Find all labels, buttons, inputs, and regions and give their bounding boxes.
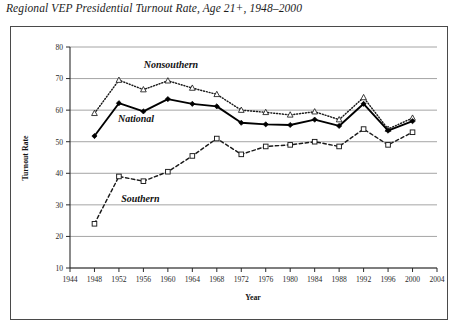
y-tick-label: 50 xyxy=(55,138,63,147)
data-point-marker xyxy=(288,143,293,148)
x-tick-label: 1948 xyxy=(87,275,102,284)
data-point-marker xyxy=(263,122,268,127)
y-tick-label: 30 xyxy=(55,201,63,210)
y-tick-label: 70 xyxy=(55,74,63,83)
y-tick-label: 40 xyxy=(55,169,63,178)
data-point-marker xyxy=(92,222,97,227)
x-tick-label: 2000 xyxy=(405,275,420,284)
data-point-marker xyxy=(141,179,146,184)
x-tick-label: 1960 xyxy=(160,275,175,284)
data-point-marker xyxy=(239,152,244,157)
x-tick-label: 1956 xyxy=(136,275,151,284)
y-tick-label: 10 xyxy=(55,264,63,273)
data-series-layer xyxy=(92,77,416,226)
series-annotation: Southern xyxy=(121,193,160,204)
data-point-marker xyxy=(337,144,342,149)
x-tick-label: 1964 xyxy=(185,275,200,284)
data-point-marker xyxy=(190,154,195,159)
data-point-marker xyxy=(166,169,171,174)
y-axis-title: Turnout Rate xyxy=(21,135,30,181)
data-point-marker xyxy=(312,117,317,122)
x-tick-label: 1984 xyxy=(307,275,322,284)
data-point-marker xyxy=(361,94,367,99)
series-line xyxy=(94,129,412,224)
data-point-marker xyxy=(116,77,122,82)
series-annotation: National xyxy=(117,113,154,124)
chart-plot-area: 1020304050607080 19441948195219561960196… xyxy=(0,0,458,332)
x-tick-label: 1944 xyxy=(62,275,77,284)
x-tick-label: 2004 xyxy=(429,275,444,284)
series-annotations: NonsouthernNationalSouthern xyxy=(117,59,199,203)
x-tick-label: 1988 xyxy=(332,275,347,284)
y-tick-label: 60 xyxy=(55,106,63,115)
x-tick-label: 1996 xyxy=(380,275,395,284)
series-annotation: Nonsouthern xyxy=(143,59,199,70)
x-axis-ticks: 1944194819521956196019641968197219761980… xyxy=(62,268,444,284)
data-point-marker xyxy=(312,139,317,144)
data-point-marker xyxy=(263,144,268,149)
data-point-marker xyxy=(117,174,122,179)
x-tick-label: 1972 xyxy=(234,275,249,284)
data-point-marker xyxy=(288,122,293,127)
y-tick-label: 80 xyxy=(55,43,63,52)
chart-figure: Regional VEP Presidential Turnout Rate, … xyxy=(0,0,458,332)
data-point-marker xyxy=(190,101,195,106)
data-point-marker xyxy=(312,109,318,114)
data-point-marker xyxy=(361,127,366,132)
x-tick-label: 1968 xyxy=(209,275,224,284)
x-tick-label: 1976 xyxy=(258,275,273,284)
y-tick-label: 20 xyxy=(55,232,63,241)
data-point-marker xyxy=(386,143,391,148)
x-tick-label: 1992 xyxy=(356,275,371,284)
x-tick-label: 1952 xyxy=(111,275,126,284)
data-point-marker xyxy=(215,136,220,141)
x-axis-title: Year xyxy=(245,293,261,302)
gridlines xyxy=(70,47,437,268)
x-tick-label: 1980 xyxy=(283,275,298,284)
data-point-marker xyxy=(410,130,415,135)
y-axis-ticks: 1020304050607080 xyxy=(55,43,70,273)
